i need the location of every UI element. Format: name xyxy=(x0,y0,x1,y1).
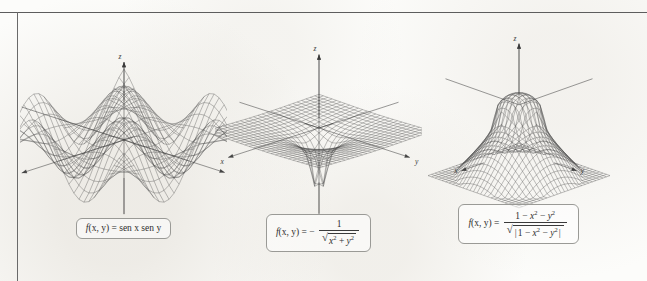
formula-box-3: f(x, y) = 1 − x2 − y2 √|1 − x2 − y2| xyxy=(458,204,578,244)
surface-panel-2: zxy f(x, y) = − 1 √x2 + y2 xyxy=(215,22,422,272)
surface-plot-3: zxy xyxy=(415,22,622,210)
formula-3-denominator: √|1 − x2 − y2| xyxy=(504,222,567,239)
formula-box-2: f(x, y) = − 1 √x2 + y2 xyxy=(266,214,371,252)
formula-3-den-one: 1 xyxy=(518,228,523,238)
surface-plot-2: zxy xyxy=(215,22,422,218)
formula-1-rhs: sen x sen y xyxy=(119,223,161,233)
svg-text:z: z xyxy=(118,52,122,61)
caption-wrap-2: f(x, y) = − 1 √x2 + y2 xyxy=(215,214,422,252)
formula-3-den-minus-b: − xyxy=(542,228,547,238)
surface-plot-1: zxy xyxy=(20,22,227,218)
formula-3-num-minus-b: − xyxy=(540,211,545,221)
formula-box-1: f(x, y) = sen x sen y xyxy=(76,218,171,239)
formula-1-args: (x, y) xyxy=(89,223,110,233)
formula-2-numerator: 1 xyxy=(334,219,345,230)
formula-3-den-x-exp: 2 xyxy=(537,226,540,233)
sqrt-icon: √x2 + y2 xyxy=(322,232,356,247)
caption-wrap-1: f(x, y) = sen x sen y xyxy=(20,218,227,239)
formula-3-num-y-exp: 2 xyxy=(552,209,555,216)
figure-page: zxy f(x, y) = sen x sen y zxy f(x, y) = … xyxy=(0,0,647,281)
formula-3-numerator: 1 − x2 − y2 xyxy=(512,209,558,222)
formula-2-rad-a-exp: 2 xyxy=(333,234,336,241)
formula-2-args: (x, y) xyxy=(279,227,300,237)
formula-2-fraction: 1 √x2 + y2 xyxy=(319,219,359,247)
top-horizontal-rule xyxy=(0,12,647,13)
surface-panel-3: zxy f(x, y) = 1 − x2 − y2 √|1 − x2 xyxy=(415,22,622,272)
sqrt-icon: √|1 − x2 − y2| xyxy=(507,224,564,239)
formula-3-num-x-exp: 2 xyxy=(534,209,537,216)
formula-2-minus: − xyxy=(309,227,314,237)
formula-3-fraction: 1 − x2 − y2 √|1 − x2 − y2| xyxy=(504,209,567,239)
formula-2-plus: + xyxy=(339,236,344,246)
formula-2-denominator: √x2 + y2 xyxy=(319,230,359,247)
formula-3-num-one: 1 xyxy=(515,211,520,221)
svg-text:x: x xyxy=(220,157,225,166)
left-vertical-rule xyxy=(17,12,18,281)
formula-2-rad-b-exp: 2 xyxy=(351,234,354,241)
formula-3-num-minus-a: − xyxy=(522,211,527,221)
surface-panel-1: zxy f(x, y) = sen x sen y xyxy=(20,22,227,272)
formula-3-equals: = xyxy=(494,218,499,228)
formula-3-den-minus-a: − xyxy=(525,228,530,238)
formula-3-args: (x, y) xyxy=(471,218,492,228)
svg-text:z: z xyxy=(513,34,517,43)
formula-1-equals: = xyxy=(111,223,116,233)
formula-3-bar-close: | xyxy=(558,228,562,238)
svg-text:z: z xyxy=(313,44,317,53)
formula-2-equals: = xyxy=(302,227,307,237)
caption-wrap-3: f(x, y) = 1 − x2 − y2 √|1 − x2 − y2| xyxy=(415,204,622,244)
